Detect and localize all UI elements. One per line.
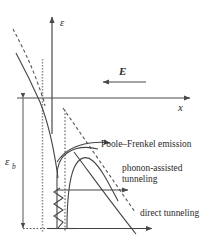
band-edge-curve-dashed [13, 29, 45, 106]
phonon-assisted-tunneling-label-line2: tunneling [122, 174, 158, 184]
energy-axis-label: ε [60, 17, 65, 28]
direct-tunneling-label: direct tunneling [140, 208, 199, 218]
diagram-canvas: ε x E ε b Poole–Frenkel emission phonon-… [0, 0, 223, 246]
poole-frenkel-emission-label: Poole–Frenkel emission [101, 139, 192, 149]
energy-band-diagram-figure: ε x E ε b Poole–Frenkel emission phonon-… [0, 0, 223, 246]
barrier-height-symbol: ε [5, 155, 10, 167]
barrier-height-subscript: b [12, 162, 16, 171]
phonon-assisted-tunneling-label-line1: phonon-assisted [122, 163, 183, 173]
position-axis-label: x [177, 101, 183, 113]
electric-field-label: E [118, 65, 126, 77]
inner-barrier-profile [67, 158, 118, 228]
phonon-zigzag [54, 188, 63, 228]
tilted-barrier-dashed-line [63, 108, 135, 212]
